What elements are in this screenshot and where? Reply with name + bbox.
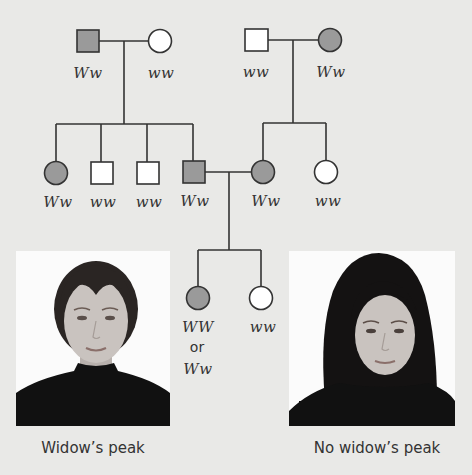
genotype-label: Ww: [43, 193, 72, 211]
genotype-or-label: or: [190, 339, 204, 355]
genotype-label: Ww: [316, 63, 345, 81]
gen2-left-sibling-3-square: [137, 162, 159, 184]
widows-peak-photo: [16, 251, 170, 426]
gen2-left-sibling-1-circle: [45, 162, 68, 185]
genotype-label: Ww: [251, 192, 280, 210]
gen1-right-mother-circle: [319, 29, 342, 52]
pedigree-figure: Ww ww ww Ww Ww ww ww Ww Ww ww WW or Ww w…: [0, 0, 472, 475]
woman-with-widows-peak-portrait: [16, 251, 170, 426]
genotype-label: ww: [250, 318, 277, 336]
genotype-label: ww: [136, 193, 163, 211]
gen1-left-father-square: [77, 30, 99, 52]
genotype-label: ww: [90, 193, 117, 211]
gen3-child-1-circle: [187, 287, 210, 310]
gen1-right-father-square: [245, 29, 268, 51]
gen2-left-sibling-2-square: [91, 162, 113, 184]
gen2-left-sibling-4-square: [183, 161, 205, 183]
no-widows-peak-photo: [289, 251, 455, 426]
genotype-label: Ww: [73, 64, 102, 82]
genotype-label: Ww: [180, 192, 209, 210]
genotype-label: ww: [315, 192, 342, 210]
no-widows-peak-caption: No widow’s peak: [314, 439, 441, 457]
widows-peak-caption: Widow’s peak: [41, 439, 145, 457]
genotype-label: ww: [243, 63, 270, 81]
gen1-left-mother-circle: [149, 30, 172, 53]
woman-without-widows-peak-portrait: [289, 251, 455, 426]
genotype-label: ww: [148, 64, 175, 82]
gen2-right-sibling-1-circle: [252, 161, 275, 184]
gen2-right-sibling-2-circle: [315, 161, 338, 184]
genotype-label: WW: [182, 318, 214, 336]
gen3-child-2-circle: [250, 287, 273, 310]
genotype-label: Ww: [183, 360, 212, 378]
